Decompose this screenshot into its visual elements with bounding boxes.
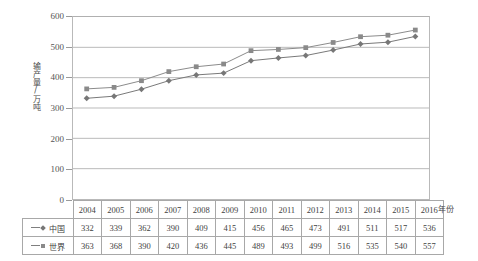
year-header-2008: 2008 xyxy=(187,201,216,219)
cell-中国-2015: 517 xyxy=(387,219,416,237)
year-header-2014: 2014 xyxy=(358,201,387,219)
marker-世界-2009 xyxy=(221,62,226,67)
y-tick-mark-500 xyxy=(66,47,72,48)
marker-世界-2007 xyxy=(166,69,171,74)
cell-中国-2008: 409 xyxy=(187,219,216,237)
marker-世界-2006 xyxy=(139,78,144,83)
table-row: 中国33233936239040941545646547349151151753… xyxy=(23,219,444,237)
cell-世界-2009: 445 xyxy=(216,237,245,255)
cell-中国-2009: 415 xyxy=(216,219,245,237)
y-tick-label-200: 200 xyxy=(51,134,65,143)
cell-中国-2005: 339 xyxy=(102,219,131,237)
cell-世界-2007: 420 xyxy=(159,237,188,255)
data-table-wrap: 2004200520062007200820092010201120122013… xyxy=(22,200,430,255)
year-header-2011: 2011 xyxy=(273,201,302,219)
y-tick-mark-0 xyxy=(66,200,72,201)
square-marker-icon xyxy=(31,244,46,248)
diamond-marker-icon xyxy=(31,226,46,230)
marker-中国-2012 xyxy=(303,53,309,59)
chart-figure: 输产量/万吨 0100200300400500600 2004200520062… xyxy=(0,0,478,261)
plot-svg xyxy=(73,17,429,199)
marker-世界-2004 xyxy=(84,87,89,92)
legend-marker xyxy=(40,225,46,231)
series-line-中国 xyxy=(87,36,416,98)
series-legend-中国: 中国 xyxy=(23,219,74,237)
marker-世界-2016 xyxy=(413,28,418,33)
cell-中国-2016: 536 xyxy=(415,219,444,237)
y-tick-mark-200 xyxy=(66,139,72,140)
cell-世界-2008: 436 xyxy=(187,237,216,255)
legend-line-left xyxy=(31,245,40,246)
table-row-years: 2004200520062007200820092010201120122013… xyxy=(23,201,444,219)
marker-中国-2008 xyxy=(193,72,199,78)
year-header-2012: 2012 xyxy=(301,201,330,219)
marker-中国-2014 xyxy=(358,41,364,47)
year-header-2015: 2015 xyxy=(387,201,416,219)
marker-世界-2015 xyxy=(386,33,391,38)
marker-中国-2011 xyxy=(275,55,281,61)
y-axis-title: 输产量/万吨 xyxy=(27,62,40,111)
series-lines xyxy=(87,30,416,98)
table-row: 世界36336839042043644548949349951653554055… xyxy=(23,237,444,255)
cell-世界-2014: 535 xyxy=(358,237,387,255)
marker-世界-2005 xyxy=(112,85,117,90)
marker-中国-2013 xyxy=(330,47,336,53)
y-axis-tick-labels: 0100200300400500600 xyxy=(40,12,68,200)
y-tick-label-100: 100 xyxy=(51,165,65,174)
cell-中国-2014: 511 xyxy=(358,219,387,237)
cell-世界-2005: 368 xyxy=(102,237,131,255)
year-header-2010: 2010 xyxy=(244,201,273,219)
year-header-2013: 2013 xyxy=(330,201,359,219)
marker-中国-2010 xyxy=(248,58,254,64)
marker-中国-2015 xyxy=(385,39,391,45)
y-tick-label-300: 300 xyxy=(51,104,65,113)
year-header-2004: 2004 xyxy=(73,201,102,219)
x-axis-title: 年份 xyxy=(438,203,454,214)
series-name-label: 世界 xyxy=(49,242,65,251)
marker-中国-2005 xyxy=(111,93,117,99)
y-tick-mark-300 xyxy=(66,108,72,109)
cell-世界-2004: 363 xyxy=(73,237,102,255)
cell-世界-2015: 540 xyxy=(387,237,416,255)
y-tick-label-400: 400 xyxy=(51,73,65,82)
marker-世界-2008 xyxy=(194,64,199,69)
marker-中国-2006 xyxy=(138,86,144,92)
y-tick-mark-100 xyxy=(66,169,72,170)
cell-中国-2006: 362 xyxy=(130,219,159,237)
series-markers xyxy=(84,28,419,102)
marker-中国-2007 xyxy=(166,78,172,84)
year-row-corner xyxy=(23,201,74,219)
year-header-2005: 2005 xyxy=(102,201,131,219)
cell-世界-2006: 390 xyxy=(130,237,159,255)
y-tick-label-600: 600 xyxy=(51,12,65,21)
plot-area xyxy=(72,16,430,200)
cell-世界-2012: 499 xyxy=(301,237,330,255)
cell-中国-2012: 473 xyxy=(301,219,330,237)
marker-中国-2009 xyxy=(221,70,227,76)
cell-中国-2013: 491 xyxy=(330,219,359,237)
y-tick-mark-400 xyxy=(66,77,72,78)
cell-世界-2010: 489 xyxy=(244,237,273,255)
marker-世界-2013 xyxy=(331,40,336,45)
marker-中国-2016 xyxy=(412,33,418,39)
cell-中国-2011: 465 xyxy=(273,219,302,237)
legend-marker xyxy=(41,244,45,248)
cell-世界-2013: 516 xyxy=(330,237,359,255)
cell-中国-2004: 332 xyxy=(73,219,102,237)
cell-中国-2010: 456 xyxy=(244,219,273,237)
data-table: 2004200520062007200820092010201120122013… xyxy=(22,200,444,255)
year-header-2007: 2007 xyxy=(159,201,188,219)
cell-中国-2007: 390 xyxy=(159,219,188,237)
marker-世界-2014 xyxy=(358,34,363,39)
marker-世界-2012 xyxy=(303,45,308,50)
cell-世界-2011: 493 xyxy=(273,237,302,255)
year-header-2006: 2006 xyxy=(130,201,159,219)
marker-中国-2004 xyxy=(84,95,90,101)
y-tick-label-500: 500 xyxy=(51,42,65,51)
cell-世界-2016: 557 xyxy=(415,237,444,255)
marker-世界-2010 xyxy=(249,48,254,53)
series-legend-世界: 世界 xyxy=(23,237,74,255)
gridlines xyxy=(73,47,429,168)
legend-line-left xyxy=(31,227,40,228)
y-tick-mark-600 xyxy=(66,16,72,17)
